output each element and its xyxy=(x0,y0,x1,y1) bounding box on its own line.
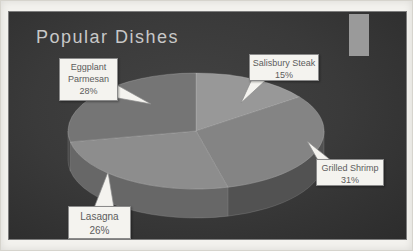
callout-percent: 31% xyxy=(318,174,382,186)
callout-grilled-shrimp: Grilled Shrimp 31% xyxy=(316,159,384,186)
callout-label-line: Lasagna xyxy=(80,211,118,222)
pie-chart xyxy=(9,12,406,239)
callout-salisbury-steak: Salisbury Steak 15% xyxy=(249,54,319,81)
callout-label-line: Eggplant xyxy=(71,62,107,72)
callout-eggplant-parmesan: Eggplant Parmesan 28% xyxy=(59,58,118,101)
callout-percent: 26% xyxy=(70,224,129,238)
callout-percent: 15% xyxy=(251,69,317,81)
callout-percent: 28% xyxy=(61,85,116,97)
callout-label-line: Parmesan xyxy=(68,74,109,84)
slide-canvas: Popular Dishes Eggplant Parmesan 28% Sal… xyxy=(9,12,406,239)
callout-label-line: Grilled Shrimp xyxy=(321,163,378,173)
scanned-slide-photo: Popular Dishes Eggplant Parmesan 28% Sal… xyxy=(0,0,413,251)
callout-lasagna: Lasagna 26% xyxy=(68,206,131,239)
callout-label-line: Salisbury Steak xyxy=(253,58,316,68)
